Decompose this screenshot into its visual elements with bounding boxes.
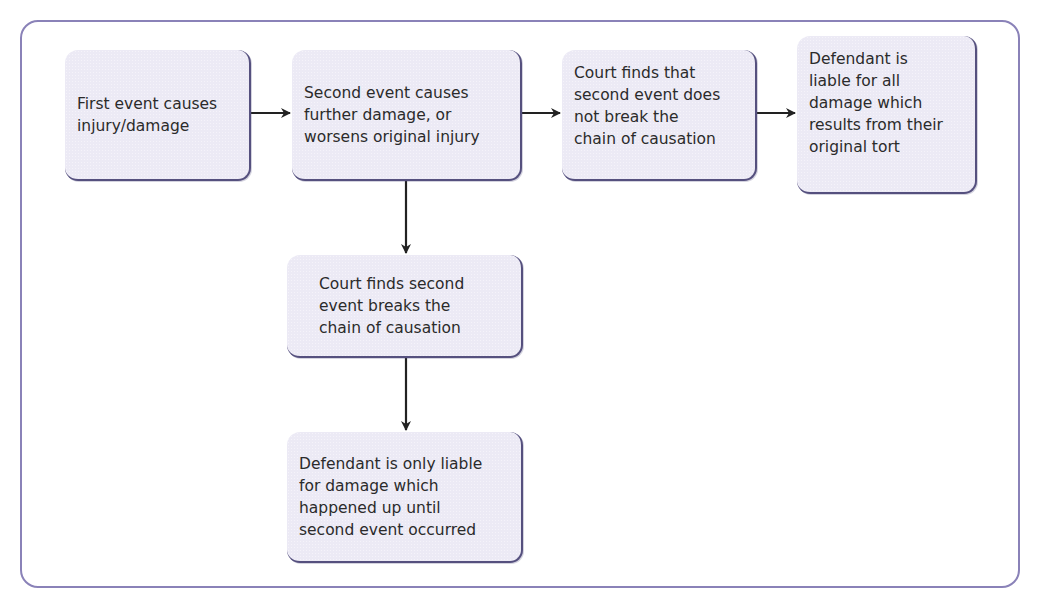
node-court-not-break: Court finds that second event does not b… bbox=[562, 50, 757, 181]
node-first-event: First event causes injury/damage bbox=[65, 50, 251, 181]
node-court-not-break-text: Court finds that second event does not b… bbox=[574, 62, 720, 150]
node-liable-all: Defendant is liable for all damage which… bbox=[797, 36, 977, 194]
node-liable-only: Defendant is only liable for damage whic… bbox=[287, 432, 523, 563]
node-second-event-text: Second event causes further damage, or w… bbox=[304, 82, 480, 148]
node-court-breaks-text: Court finds second event breaks the chai… bbox=[319, 273, 464, 339]
node-first-event-text: First event causes injury/damage bbox=[77, 93, 217, 137]
node-liable-only-text: Defendant is only liable for damage whic… bbox=[299, 453, 482, 541]
node-court-breaks: Court finds second event breaks the chai… bbox=[287, 255, 523, 358]
node-liable-all-text: Defendant is liable for all damage which… bbox=[809, 48, 943, 158]
node-second-event: Second event causes further damage, or w… bbox=[292, 50, 522, 181]
